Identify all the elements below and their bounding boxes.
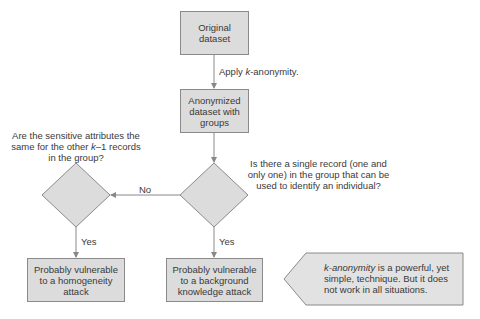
question-sensitive-attributes: Are the sensitive attributes the same fo… [6, 130, 146, 163]
callout-italic: k-anonymity [324, 262, 375, 273]
node-anonymized-line1: Anonymized [188, 95, 240, 106]
node-original-line2: dataset [198, 33, 231, 44]
homogeneity-line3: attack [34, 286, 118, 297]
decision-sensitive-attributes [42, 163, 110, 227]
callout-line1: k-anonymity is a powerful, yet [324, 262, 459, 273]
node-original-dataset: Original dataset [180, 11, 249, 55]
callout-line3: not work in all situations. [324, 284, 459, 295]
node-background-knowledge-attack: Probably vulnerable to a background know… [166, 258, 263, 302]
background-line3: knowledge attack [173, 286, 257, 297]
question-single-line2: only one) in the group that can be [246, 169, 391, 180]
background-line1: Probably vulnerable [173, 264, 257, 275]
homogeneity-line1: Probably vulnerable [34, 264, 118, 275]
question-sensitive-line1: Are the sensitive attributes the [6, 130, 146, 141]
node-original-line1: Original [198, 22, 231, 33]
edge-label-no: No [139, 184, 151, 195]
question-single-line3: used to identify an individual? [246, 180, 391, 191]
apply-prefix: Apply [219, 66, 245, 77]
decision-single-record [180, 163, 248, 227]
node-anonymized-line3: groups [188, 117, 240, 128]
question-single-record: Is there a single record (one and only o… [246, 158, 391, 191]
callout-line1-rest: is a powerful, yet [375, 262, 449, 273]
callout-line2: simple, technique. But it does [324, 273, 459, 284]
q2-prefix: same for the other [11, 141, 91, 152]
apply-suffix: -anonymity. [250, 66, 298, 77]
edge-label-yes-left: Yes [81, 236, 97, 247]
edge-label-yes-right: Yes [219, 236, 235, 247]
edge-label-apply: Apply k-anonymity. [219, 66, 299, 77]
question-sensitive-line2: same for the other k–1 records [6, 141, 146, 152]
node-homogeneity-attack: Probably vulnerable to a homogeneity att… [27, 258, 125, 302]
question-single-line1: Is there a single record (one and [246, 158, 391, 169]
homogeneity-line2: to a homogeneity [34, 275, 118, 286]
question-sensitive-line3: in the group? [6, 152, 146, 163]
background-line2: to a background [173, 275, 257, 286]
node-anonymized-dataset: Anonymized dataset with groups [180, 89, 249, 133]
node-anonymized-line2: dataset with [188, 106, 240, 117]
callout-text: k-anonymity is a powerful, yet simple, t… [324, 262, 459, 295]
q2-suffix: –1 records [96, 141, 141, 152]
